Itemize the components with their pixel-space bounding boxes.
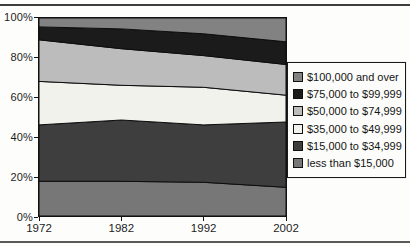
y-axis-tick [34, 137, 38, 138]
legend-item: $100,000 and over [293, 68, 401, 85]
x-axis-label-2002: 2002 [264, 222, 308, 234]
legend-item: $75,000 to $99,999 [293, 85, 401, 102]
y-axis-tick [34, 217, 38, 218]
legend-swatch-icon [293, 124, 303, 134]
y-axis-tick [34, 57, 38, 58]
x-axis-tick [121, 217, 122, 221]
band-less-than-15-000 [39, 181, 286, 216]
x-axis-tick [286, 217, 287, 221]
x-axis-tick [203, 217, 204, 221]
y-axis-label-100: 100% [0, 11, 33, 23]
legend-label: $15,000 to $34,999 [307, 140, 402, 152]
legend-item: less than $15,000 [293, 154, 401, 171]
stacked-area-bands [39, 18, 286, 216]
x-axis-label-1992: 1992 [182, 222, 226, 234]
plot-area [38, 17, 287, 217]
x-axis-label-1972: 1972 [17, 222, 61, 234]
chart-legend: $100,000 and over$75,000 to $99,999$50,0… [287, 62, 406, 178]
legend-label: $75,000 to $99,999 [307, 88, 402, 100]
y-axis-tick [34, 177, 38, 178]
y-axis-label-60: 60% [0, 91, 33, 103]
band--15-000-to-34-999 [39, 120, 286, 187]
y-axis-label-20: 20% [0, 171, 33, 183]
y-axis-tick [34, 17, 38, 18]
y-axis-tick [34, 97, 38, 98]
x-axis-tick [39, 217, 40, 221]
legend-swatch-icon [293, 89, 303, 99]
document-page: 100%80%60%40%20%0% 1972198219922002 $100… [0, 0, 410, 247]
legend-swatch-icon [293, 72, 303, 82]
y-axis-label-80: 80% [0, 51, 33, 63]
legend-item: $15,000 to $34,999 [293, 137, 401, 154]
legend-swatch-icon [293, 106, 303, 116]
legend-label: $35,000 to $49,999 [307, 123, 402, 135]
x-axis-label-1982: 1982 [99, 222, 143, 234]
y-axis-label-0: 0% [0, 211, 33, 223]
legend-item: $35,000 to $49,999 [293, 120, 401, 137]
legend-label: $100,000 and over [307, 71, 399, 83]
bottom-rule [0, 241, 410, 243]
legend-swatch-icon [293, 141, 303, 151]
y-axis-label-40: 40% [0, 131, 33, 143]
legend-label: $50,000 to $74,999 [307, 105, 402, 117]
legend-item: $50,000 to $74,999 [293, 103, 401, 120]
legend-swatch-icon [293, 158, 303, 168]
legend-label: less than $15,000 [307, 157, 394, 169]
